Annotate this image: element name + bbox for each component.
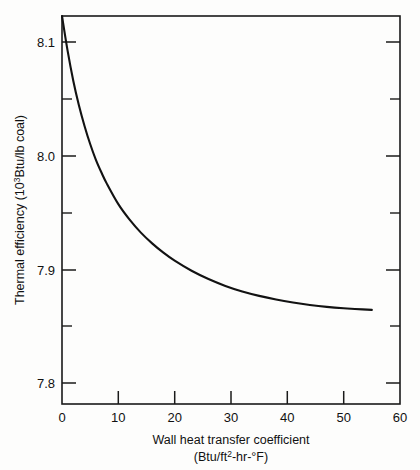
data-series-line [62,16,372,310]
y-tick-label-7-8: 7.8 [37,376,55,391]
thermal-efficiency-line-chart: 8.1 8.0 7.9 7.8 0 10 20 30 40 50 60 Wall… [0,0,420,470]
x-tick-label-30: 30 [224,410,238,425]
x-tick-label-60: 60 [393,410,407,425]
y-axis-minor-ticks [62,99,72,326]
x-axis-major-ticks [118,391,343,404]
x-axis-label-line2: (Btu/ft2-hr-°F) [194,449,268,464]
x-axis-unit-pre: (Btu/ft [194,450,228,464]
y-axis-unit-pre: Thermal efficiency (10 [13,182,27,305]
x-axis-unit-post: -hr-°F) [232,450,268,464]
y-axis-tick-labels: 8.1 8.0 7.9 7.8 [37,35,55,391]
chart-figure: 8.1 8.0 7.9 7.8 0 10 20 30 40 50 60 Wall… [0,0,420,470]
x-tick-label-20: 20 [167,410,181,425]
plot-frame [62,16,400,404]
x-tick-label-40: 40 [280,410,294,425]
y-tick-label-8-1: 8.1 [37,35,55,50]
x-tick-label-0: 0 [58,410,65,425]
y-axis-label: Thermal efficiency (103Btu/lb coal) [12,115,27,305]
x-tick-label-10: 10 [111,410,125,425]
x-tick-label-50: 50 [336,410,350,425]
y-axis-right-ticks [386,42,400,383]
x-axis-label-line1: Wall heat transfer coefficient [152,433,310,447]
y-axis-unit-post: Btu/lb coal) [13,115,27,178]
y-tick-label-7-9: 7.9 [37,263,55,278]
x-axis-tick-labels: 0 10 20 30 40 50 60 [58,410,407,425]
y-tick-label-8-0: 8.0 [37,149,55,164]
